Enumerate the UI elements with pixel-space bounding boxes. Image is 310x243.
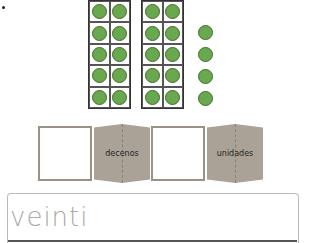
counter-icon: [92, 47, 107, 62]
counter-icon: [198, 91, 213, 106]
bullet-point: [2, 6, 5, 9]
counter-icon: [145, 4, 160, 19]
frame-cell: [110, 1, 131, 22]
counter-icon: [112, 90, 127, 105]
tens-label-panel: decenos: [94, 124, 150, 183]
counter-icon: [112, 26, 127, 41]
counter-icon: [92, 90, 107, 105]
counter-icon: [165, 26, 180, 41]
frame-cell: [142, 22, 163, 43]
frame-cell: [110, 44, 131, 65]
answer-field[interactable]: veinti: [7, 193, 299, 243]
frame-cell: [142, 44, 163, 65]
frame-cell: [142, 87, 163, 108]
frame-cell: [142, 65, 163, 86]
frame-cell: [163, 1, 184, 22]
counter-icon: [165, 68, 180, 83]
counter-icon: [145, 26, 160, 41]
counter-icon: [92, 4, 107, 19]
counter-icon: [165, 4, 180, 19]
counter-icon: [145, 47, 160, 62]
ten-frame-2: [141, 0, 184, 109]
frame-cell: [89, 87, 110, 108]
ones-label: unidades: [217, 149, 254, 158]
frame-cell: [163, 44, 184, 65]
frame-cell: [110, 87, 131, 108]
tens-answer-box[interactable]: [38, 126, 92, 181]
counter-icon: [198, 69, 213, 84]
frame-cell: [89, 44, 110, 65]
answer-text: veinti: [10, 202, 89, 232]
counter-icon: [92, 26, 107, 41]
counter-icon: [165, 47, 180, 62]
counter-icon: [112, 47, 127, 62]
ones-answer-box[interactable]: [151, 126, 205, 181]
frame-cell: [110, 65, 131, 86]
frame-cell: [89, 1, 110, 22]
counter-icon: [145, 90, 160, 105]
tens-label: decenos: [105, 149, 138, 158]
frame-cell: [163, 87, 184, 108]
ones-label-panel: unidades: [207, 124, 263, 183]
frame-cell: [163, 65, 184, 86]
counter-icon: [145, 68, 160, 83]
counter-icon: [198, 25, 213, 40]
ten-frame-1: [88, 0, 131, 109]
counter-icon: [165, 90, 180, 105]
frame-cell: [142, 1, 163, 22]
frame-cell: [110, 22, 131, 43]
frame-cell: [89, 22, 110, 43]
counter-icon: [92, 68, 107, 83]
counter-icon: [112, 68, 127, 83]
frame-cell: [163, 22, 184, 43]
counter-icon: [198, 47, 213, 62]
writing-baseline: [8, 240, 297, 242]
frame-cell: [89, 65, 110, 86]
counter-icon: [112, 4, 127, 19]
